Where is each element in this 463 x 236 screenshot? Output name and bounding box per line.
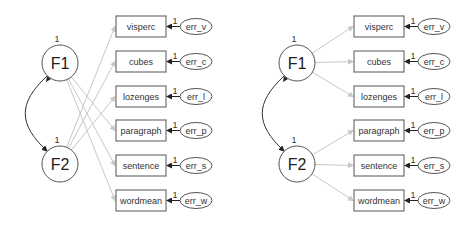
indicator-cubes[interactable]: cubes1err_c	[116, 51, 212, 73]
indicator-visperc[interactable]: visperc1err_v	[354, 16, 450, 38]
indicator-lozenges[interactable]: lozenges1err_l	[354, 86, 450, 108]
error-label: err_s	[424, 161, 445, 171]
error-err_s[interactable]: err_s	[418, 158, 450, 174]
latent-label: F1	[288, 55, 307, 72]
error-loading-label: 1	[172, 86, 177, 96]
error-loading-label: 1	[172, 190, 177, 200]
latent-f1[interactable]: F11	[42, 34, 78, 81]
indicator-sentence[interactable]: sentence1err_s	[116, 155, 212, 177]
indicator-label: wordmean	[357, 196, 400, 206]
indicator-paragraph[interactable]: paragraph1err_p	[354, 120, 450, 142]
latent-f2[interactable]: F21	[42, 135, 78, 182]
error-loading-label: 1	[172, 120, 177, 130]
loading-path-f2-paragraph[interactable]	[312, 131, 353, 155]
latent-label: F2	[51, 156, 70, 173]
error-label: err_p	[185, 126, 206, 136]
error-loading-label: 1	[410, 86, 415, 96]
loading-path-f1-cubes[interactable]	[315, 62, 353, 63]
error-label: err_v	[424, 22, 445, 32]
indicator-wordmean[interactable]: wordmean1err_w	[116, 190, 212, 212]
indicator-paragraph[interactable]: paragraph1err_p	[116, 120, 212, 142]
indicator-label: paragraph	[120, 126, 161, 136]
latent-label: F2	[288, 156, 307, 173]
latent-f1[interactable]: F11	[279, 34, 315, 81]
indicator-wordmean[interactable]: wordmean1err_w	[354, 190, 450, 212]
indicator-label: sentence	[123, 161, 160, 171]
covariance-arc[interactable]	[262, 76, 284, 151]
error-label: err_w	[423, 196, 446, 206]
error-loading-label: 1	[410, 51, 415, 61]
indicator-visperc[interactable]: visperc1err_v	[116, 16, 212, 38]
loading-path-f2-sentence[interactable]	[315, 164, 353, 165]
error-err_c[interactable]: err_c	[418, 54, 450, 70]
error-err_s[interactable]: err_s	[180, 158, 212, 174]
error-err_v[interactable]: err_v	[180, 19, 212, 35]
loading-path-f1-paragraph[interactable]	[71, 77, 115, 131]
variance-label: 1	[54, 34, 59, 44]
error-label: err_w	[185, 196, 208, 206]
indicator-label: wordmean	[119, 196, 162, 206]
loading-path-f2-wordmean[interactable]	[312, 174, 353, 201]
right-diagram: F11F21visperc1err_vcubes1err_clozenges1e…	[262, 16, 450, 212]
left-diagram: F11F21visperc1err_vcubes1err_clozenges1e…	[25, 16, 212, 212]
error-loading-label: 1	[410, 120, 415, 130]
error-label: err_l	[425, 92, 443, 102]
error-err_p[interactable]: err_p	[418, 123, 450, 139]
indicator-label: visperc	[365, 22, 394, 32]
error-label: err_s	[186, 161, 207, 171]
loading-path-f2-lozenges[interactable]	[71, 97, 115, 151]
error-loading-label: 1	[172, 51, 177, 61]
error-loading-label: 1	[172, 155, 177, 165]
indicator-label: lozenges	[123, 92, 160, 102]
error-label: err_v	[186, 22, 207, 32]
indicator-label: lozenges	[361, 92, 398, 102]
covariance-arc[interactable]	[25, 76, 47, 151]
error-err_v[interactable]: err_v	[418, 19, 450, 35]
error-loading-label: 1	[410, 190, 415, 200]
error-label: err_p	[423, 126, 444, 136]
error-err_l[interactable]: err_l	[180, 89, 212, 105]
error-err_p[interactable]: err_p	[180, 123, 212, 139]
error-loading-label: 1	[410, 16, 415, 26]
latent-label: F1	[51, 55, 70, 72]
sem-diagram-canvas: F11F21visperc1err_vcubes1err_clozenges1e…	[0, 0, 463, 236]
error-err_w[interactable]: err_w	[180, 193, 212, 209]
indicator-label: cubes	[367, 57, 392, 67]
loading-path-f1-wordmean[interactable]	[67, 80, 115, 201]
error-label: err_l	[187, 92, 205, 102]
error-label: err_c	[424, 57, 445, 67]
indicator-lozenges[interactable]: lozenges1err_l	[116, 86, 212, 108]
latent-f2[interactable]: F21	[279, 135, 315, 182]
error-loading-label: 1	[410, 155, 415, 165]
indicator-label: sentence	[361, 161, 398, 171]
indicator-label: cubes	[129, 57, 154, 67]
variance-label: 1	[291, 34, 296, 44]
loading-path-f1-visperc[interactable]	[312, 27, 353, 54]
error-label: err_c	[186, 57, 207, 67]
loading-path-f2-visperc[interactable]	[67, 27, 115, 148]
variance-label: 1	[54, 135, 59, 145]
error-err_l[interactable]: err_l	[418, 89, 450, 105]
indicator-label: visperc	[127, 22, 156, 32]
indicator-label: paragraph	[358, 126, 399, 136]
error-loading-label: 1	[172, 16, 177, 26]
indicator-cubes[interactable]: cubes1err_c	[354, 51, 450, 73]
loading-path-f1-lozenges[interactable]	[312, 72, 353, 96]
variance-label: 1	[291, 135, 296, 145]
indicator-sentence[interactable]: sentence1err_s	[354, 155, 450, 177]
error-err_w[interactable]: err_w	[418, 193, 450, 209]
error-err_c[interactable]: err_c	[180, 54, 212, 70]
